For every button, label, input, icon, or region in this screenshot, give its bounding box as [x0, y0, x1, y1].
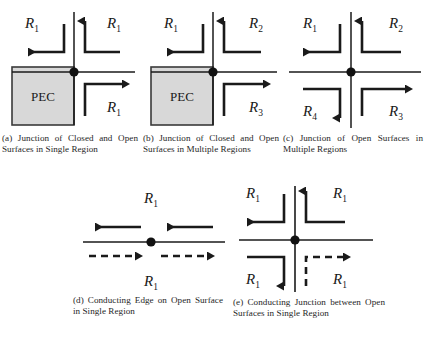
panel-e-caption-wrap: (e) Conducting Junction between Open Sur… [233, 294, 398, 320]
panel-e-diagram: R1 R1 R1 R1 [233, 182, 391, 294]
region-label-upper-right: R1 [332, 185, 347, 204]
region-label-above: R1 [143, 190, 158, 209]
panel-a-caption: (a) Junction of Closed and Open Surfaces… [2, 133, 138, 156]
figure-container: PEC R1 R1 R1 (a) Junction of Closed and … [0, 0, 429, 355]
panel-c-caption-wrap: (c) Junction of Open Surfaces in Multipl… [283, 130, 429, 156]
region-label-lower-right: R1 [106, 99, 121, 118]
panel-d-caption-wrap: (d) Conducting Edge on Open Surface in S… [73, 292, 233, 318]
panel-e-caption: (e) Conducting Junction between Open Sur… [233, 297, 385, 320]
panel-c-diagram: R1 R2 R3 R4 [283, 4, 427, 130]
region-label-lower-left: R4 [302, 103, 317, 122]
region-label-upper-right: R2 [388, 15, 403, 34]
region-label-upper-right: R1 [106, 15, 121, 34]
panel-a: PEC R1 R1 R1 (a) Junction of Closed and … [2, 4, 144, 156]
panel-e: R1 R1 R1 R1 (e) Conducting Junction betw… [233, 182, 398, 320]
panel-b-caption: (b) Junction of Closed and Open Surfaces… [143, 133, 279, 156]
panel-b-caption-wrap: (b) Junction of Closed and Open Surfaces… [143, 130, 283, 156]
pec-label: PEC [170, 89, 194, 104]
region-label-upper-right: R2 [248, 15, 263, 34]
region-label-upper-left: R1 [245, 185, 260, 204]
panel-b-diagram: PEC R1 R2 R3 [143, 4, 283, 130]
junction-node [208, 67, 217, 76]
panel-c: R1 R2 R3 R4 (c) Junction of Open Surface… [283, 4, 429, 156]
panel-d-diagram: R1 R1 [73, 186, 233, 292]
panel-d: R1 R1 (d) Conducting Edge on Open Surfac… [73, 186, 233, 318]
region-label-below: R1 [143, 273, 158, 292]
region-label-upper-left: R1 [302, 15, 317, 34]
panel-a-caption-wrap: (a) Junction of Closed and Open Surfaces… [2, 130, 144, 156]
junction-node [290, 235, 299, 244]
pec-label: PEC [31, 89, 55, 104]
region-label-lower-right: R3 [388, 103, 403, 122]
junction-node [69, 67, 78, 76]
region-label-lower-left: R1 [245, 271, 260, 290]
junction-node [146, 237, 155, 246]
region-label-upper-left: R1 [24, 15, 39, 34]
panel-a-diagram: PEC R1 R1 R1 [2, 4, 142, 130]
region-label-lower-right: R1 [332, 271, 347, 290]
region-label-upper-left: R1 [163, 15, 178, 34]
junction-node [346, 67, 355, 76]
panel-c-caption: (c) Junction of Open Surfaces in Multipl… [283, 133, 423, 156]
region-label-lower-right: R3 [248, 99, 263, 118]
panel-b: PEC R1 R2 R3 (b) Junction of Closed and … [143, 4, 283, 156]
panel-d-caption: (d) Conducting Edge on Open Surface in S… [73, 295, 223, 318]
